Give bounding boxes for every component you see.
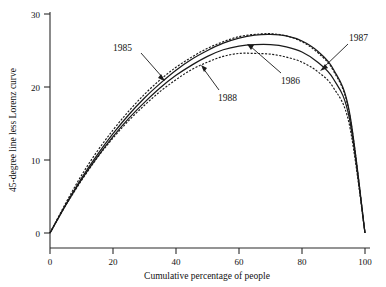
y-axis-ticks: 30 20 10 0 [31,10,50,239]
y-axis-title: 45-degree line less Lorenz curve [8,68,18,192]
x-axis-ticks: 0 20 40 60 80 100 [48,248,373,267]
x-ticklabel-40: 40 [172,257,182,267]
series-label-1986: 1986 [281,76,300,86]
leader-1987 [323,44,348,68]
series-label-1988: 1988 [218,93,237,103]
leader-1985 [141,53,163,78]
chart-figure: 30 20 10 0 0 20 40 60 80 100 Cumulative … [0,0,386,287]
curve-1986 [50,44,365,233]
arrowhead-1985 [158,74,165,81]
data-curves [50,34,365,233]
arrowhead-1988 [201,65,207,72]
curve-1987 [50,34,365,233]
curve-1985 [50,34,365,233]
leader-1988 [203,68,219,90]
leader-1986 [250,46,281,73]
series-label-1987: 1987 [349,33,368,43]
curve-1988 [50,53,365,233]
x-ticklabel-100: 100 [358,257,372,267]
annotation-labels: 1985 1987 1986 1988 [113,33,368,103]
y-ticklabel-0: 0 [36,229,41,239]
lorenz-gap-line-chart: 30 20 10 0 0 20 40 60 80 100 Cumulative … [0,0,386,287]
x-axis-title: Cumulative percentage of people [144,271,270,281]
x-ticklabel-80: 80 [298,257,308,267]
x-ticklabel-0: 0 [48,257,53,267]
y-ticklabel-10: 10 [31,156,41,166]
y-ticklabel-20: 20 [31,83,41,93]
x-ticklabel-60: 60 [235,257,245,267]
y-ticklabel-30: 30 [31,10,41,20]
x-ticklabel-20: 20 [109,257,119,267]
series-label-1985: 1985 [113,43,132,53]
